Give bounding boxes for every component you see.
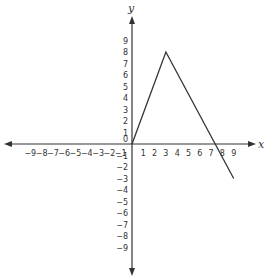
x-tick-label: 9: [231, 149, 236, 158]
x-tick-label: −6: [58, 149, 70, 158]
x-axis-arrow-right-icon: [248, 141, 256, 147]
coordinate-plane: −9−8−7−6−5−4−3−2−1123456789987654321−1−2…: [0, 0, 265, 279]
series-line: [132, 52, 234, 179]
y-tick-label: 7: [123, 60, 128, 69]
x-tick-label: 2: [152, 149, 157, 158]
x-tick-label: −3: [92, 149, 104, 158]
x-tick-label: 4: [175, 149, 180, 158]
x-tick-label: 5: [186, 149, 191, 158]
x-tick-label: 7: [209, 149, 214, 158]
y-tick-label: 4: [123, 94, 128, 103]
y-tick-label: −4: [116, 186, 128, 195]
x-tick-label: −9: [24, 149, 36, 158]
origin-label: 0: [123, 135, 128, 144]
axes: [4, 16, 256, 276]
y-tick-label: 3: [123, 106, 128, 115]
x-tick-label: 3: [163, 149, 168, 158]
data-series: [132, 52, 234, 179]
x-tick-label: 6: [197, 149, 202, 158]
x-tick-label: −7: [47, 149, 59, 158]
x-tick-label: −4: [81, 149, 93, 158]
y-tick-label: −1: [116, 152, 128, 161]
x-axis-arrow-left-icon: [4, 141, 12, 147]
y-axis-arrow-down-icon: [129, 268, 135, 276]
y-tick-label: −7: [116, 221, 128, 230]
y-tick-label: 5: [123, 83, 128, 92]
y-tick-label: −8: [116, 232, 128, 241]
y-tick-label: 2: [123, 117, 128, 126]
y-tick-label: 9: [123, 37, 128, 46]
x-axis-label: x: [258, 138, 265, 151]
y-tick-label: 6: [123, 71, 128, 80]
y-axis-label: y: [127, 2, 135, 15]
y-tick-label: 8: [123, 48, 128, 57]
x-tick-label: −8: [36, 149, 48, 158]
y-tick-label: −9: [116, 244, 128, 253]
y-tick-label: −2: [116, 163, 128, 172]
x-tick-label: 1: [141, 149, 146, 158]
y-tick-label: −5: [116, 198, 128, 207]
y-axis-arrow-up-icon: [129, 16, 135, 24]
x-tick-label: −5: [70, 149, 82, 158]
x-tick-label: −2: [104, 149, 116, 158]
y-tick-label: −3: [116, 175, 128, 184]
y-tick-label: −6: [116, 209, 128, 218]
